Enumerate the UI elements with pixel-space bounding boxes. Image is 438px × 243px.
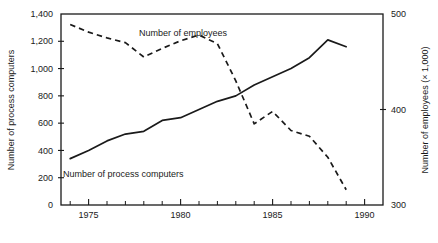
chart-container: 02004006008001,0001,2001,400 300400500 1…: [0, 0, 438, 243]
dual-axis-line-chart: 02004006008001,0001,2001,400 300400500 1…: [0, 0, 438, 243]
y-tick-label-right-400: 400: [391, 105, 406, 115]
y-axis-left-title: Number of process computers: [6, 49, 16, 170]
series-annotation-1: Number of employees: [139, 28, 228, 38]
y-tick-label-left-600: 600: [38, 118, 53, 128]
y-tick-label-left-1000: 1,000: [30, 64, 53, 74]
x-tick-label-1990: 1990: [355, 210, 375, 220]
series-annotation-2: Number of process computers: [63, 169, 184, 179]
y-tick-label-left-200: 200: [38, 173, 53, 183]
y-axis-right-title: Number of employees (× 1,000): [420, 47, 430, 174]
y-tick-label-left-400: 400: [38, 146, 53, 156]
y-tick-label-left-1400: 1,400: [30, 9, 53, 19]
y-tick-label-left-800: 800: [38, 91, 53, 101]
x-tick-label-1980: 1980: [171, 210, 191, 220]
y-tick-label-right-300: 300: [391, 200, 406, 210]
y-tick-label-left-1200: 1,200: [30, 36, 53, 46]
y-tick-label-right-500: 500: [391, 9, 406, 19]
y-tick-label-left-0: 0: [48, 200, 53, 210]
x-tick-label-1975: 1975: [79, 210, 99, 220]
x-tick-label-1985: 1985: [263, 210, 283, 220]
